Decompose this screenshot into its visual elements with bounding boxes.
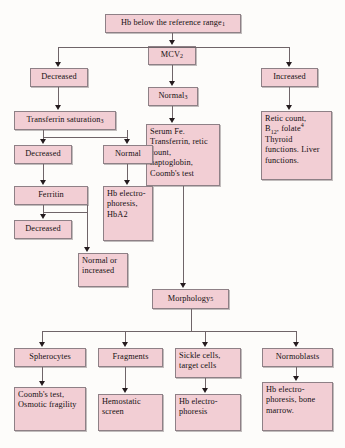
arrow-ferritin-to-normal-increased <box>84 247 90 252</box>
node-coombs-osmotic-label: Coomb's test, Osmotic fragility <box>18 390 77 409</box>
node-transferrin-decreased-label: Decreased <box>25 149 60 159</box>
arrow-increased-to-retic <box>286 105 292 110</box>
node-increased-mcv: Increased <box>261 68 318 87</box>
arrow-to-decreased-mcv <box>55 62 61 67</box>
connector-morphology-bus <box>42 331 297 332</box>
node-increased-mcv-label: Increased <box>273 72 306 82</box>
arrow-fragments-to-hemostatic <box>122 388 128 393</box>
node-mcv-label: MCV <box>161 50 180 60</box>
arrow-decreased-to-transferrin <box>55 105 61 110</box>
node-morphology: Morphology5 <box>152 289 229 309</box>
node-coombs-osmotic: Coomb's test, Osmotic fragility <box>14 387 86 431</box>
node-transferrin-label: Transferrin saturation <box>26 115 100 125</box>
arrow-transferrin-to-normal <box>124 139 130 144</box>
node-fragments-label: Fragments <box>113 352 149 362</box>
connector-transferrin-bus <box>43 137 128 138</box>
arrow-morph-to-sickle <box>202 342 208 347</box>
arrow-root-to-mcv <box>169 40 175 45</box>
connector-increased-to-retic <box>289 87 290 107</box>
node-hb-electrophoresis-hba2: Hb electro-phoresis, HbA2 <box>103 186 153 241</box>
node-transferrin-decreased: Decreased <box>14 145 72 164</box>
node-ferritin-label: Ferritin <box>38 190 64 200</box>
node-hemostatic-screen-label: Hemostatic screen <box>102 397 141 416</box>
node-ferritin-decreased: Decreased <box>14 220 72 239</box>
node-transferrin-saturation: Transferrin saturation3 <box>14 111 116 130</box>
node-retic-panel: Retic count, B12, folate4 Thyroid functi… <box>261 111 332 180</box>
connector-ferritin-bus <box>43 212 88 213</box>
arrow-spherocytes-to-coombs <box>39 381 45 386</box>
node-hb-electro-marrow: Hb electro-phoresis, bone marrow. <box>262 382 333 431</box>
node-spherocytes-label: Spherocytes <box>29 352 71 362</box>
node-normoblasts-label: Normoblasts <box>276 352 320 362</box>
node-serum-panel: Serum Fe. Transferrin, retic count, hapt… <box>146 124 220 186</box>
arrow-normal-to-hba2 <box>124 180 130 185</box>
arrow-morph-to-normoblasts <box>293 342 299 347</box>
node-normal-or-increased: Normal or increased <box>78 253 128 287</box>
node-hemostatic-screen: Hemostatic screen <box>98 394 163 431</box>
node-root-label: Hb below the reference range <box>121 18 222 28</box>
node-retic-panel-line1: Retic count, <box>265 114 306 123</box>
connector-morphology-down <box>191 309 192 332</box>
connector-bus-top <box>58 47 290 48</box>
node-transferrin-normal-label: Normal <box>115 149 141 159</box>
arrow-transferrin-to-decreased <box>40 139 46 144</box>
node-hb-electrophoresis-label: Hb electro-phoresis <box>179 397 218 416</box>
arrow-morph-to-spherocytes <box>39 342 45 347</box>
node-ferritin-decreased-label: Decreased <box>25 224 60 234</box>
connector-ferritin-right <box>87 205 88 249</box>
node-serum-panel-label: Serum Fe. Transferrin, retic count, hapt… <box>150 127 208 178</box>
node-morphology-label: Morphology <box>168 294 210 304</box>
node-decreased-mcv-label: Decreased <box>41 72 76 82</box>
node-retic-panel-folate-superscript: 4 <box>301 123 304 129</box>
node-retic-panel-folate: , folate <box>277 124 301 133</box>
arrow-serum-to-morphology <box>180 283 186 288</box>
arrow-decreased-to-ferritin <box>40 180 46 185</box>
node-retic-panel-rest: Thyroid functions. Liver functions. <box>265 135 320 165</box>
arrow-normoblasts-to-hb-marrow <box>293 376 299 381</box>
node-normal-mcv-label: Normal <box>158 91 184 101</box>
node-sickle-cells: Sickle cells, target cells <box>175 348 241 378</box>
node-normal-mcv: Normal3 <box>148 87 198 106</box>
node-hb-electrophoresis-hba2-label: Hb electro-phoresis, HbA2 <box>107 189 146 219</box>
node-hb-electrophoresis: Hb electro-phoresis <box>175 394 241 431</box>
node-normoblasts: Normoblasts <box>262 348 333 367</box>
node-spherocytes: Spherocytes <box>14 348 86 367</box>
arrow-to-increased-mcv <box>286 62 292 67</box>
node-normal-or-increased-label: Normal or increased <box>82 256 117 275</box>
node-transferrin-normal: Normal <box>103 145 153 164</box>
arrow-normal-to-serum <box>169 118 175 123</box>
arrow-ferritin-to-decreased <box>40 214 46 219</box>
connector-fragments-down <box>125 367 126 390</box>
connector-serum-to-morphology <box>183 186 184 285</box>
arrow-morph-to-fragments <box>122 342 128 347</box>
arrow-sickle-to-hb-electro <box>202 388 208 393</box>
node-hb-electro-marrow-label: Hb electro-phoresis, bone marrow. <box>266 385 315 415</box>
node-decreased-mcv: Decreased <box>30 68 88 87</box>
node-ferritin: Ferritin <box>14 186 88 205</box>
node-sickle-cells-label: Sickle cells, target cells <box>179 351 220 370</box>
anaemia-flowchart: Hb below the reference range1 MCV2 Decre… <box>0 0 345 448</box>
node-root: Hb below the reference range1 <box>105 14 241 33</box>
node-mcv: MCV2 <box>148 46 196 65</box>
connector-decreased-to-transferrin <box>58 87 59 107</box>
node-fragments: Fragments <box>98 348 163 367</box>
arrow-mcv-to-normal <box>169 81 175 86</box>
